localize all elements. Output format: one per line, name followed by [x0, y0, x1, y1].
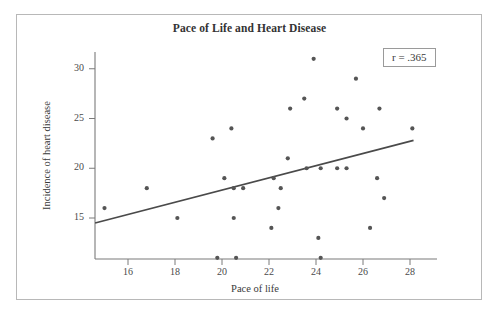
axis-lines: [95, 52, 437, 259]
data-point: [286, 156, 290, 160]
data-point: [382, 196, 386, 200]
data-point: [288, 106, 292, 110]
data-point: [232, 186, 236, 190]
data-point: [276, 206, 280, 210]
data-point: [234, 256, 238, 260]
data-point: [102, 206, 106, 210]
data-point: [316, 236, 320, 240]
data-point: [377, 106, 381, 110]
data-point: [302, 97, 306, 101]
data-point: [410, 126, 414, 130]
regression-line: [95, 140, 413, 223]
data-point: [335, 166, 339, 170]
x-tick-label: 20: [210, 266, 234, 277]
x-axis-ticks: [128, 259, 410, 265]
regression-line-segment: [95, 140, 413, 223]
y-tick-label: 30: [62, 62, 84, 73]
x-tick-label: 24: [304, 266, 328, 277]
data-point: [241, 186, 245, 190]
data-point: [354, 77, 358, 81]
data-point: [312, 57, 316, 61]
data-point: [279, 186, 283, 190]
data-point: [305, 166, 309, 170]
data-point: [375, 176, 379, 180]
correlation-annotation-box: r = .365: [383, 48, 436, 67]
x-axis-title: Pace of life: [95, 283, 415, 294]
y-axis-title: Incidence of heart disease: [41, 66, 52, 246]
figure-container: Pace of Life and Heart Disease 15202530 …: [0, 0, 499, 315]
x-tick-label: 18: [163, 266, 187, 277]
y-tick-label: 25: [62, 112, 84, 123]
data-point: [272, 176, 276, 180]
data-point: [175, 216, 179, 220]
data-points: [102, 57, 414, 260]
y-tick-label: 20: [62, 161, 84, 172]
data-point: [368, 226, 372, 230]
data-point: [229, 126, 233, 130]
x-tick-label: 22: [257, 266, 281, 277]
data-point: [211, 136, 215, 140]
data-point: [319, 256, 323, 260]
x-tick-label: 26: [351, 266, 375, 277]
y-axis-ticks: [89, 69, 95, 218]
data-point: [215, 256, 219, 260]
data-point: [344, 166, 348, 170]
data-point: [335, 106, 339, 110]
data-point: [319, 166, 323, 170]
y-tick-label: 15: [62, 211, 84, 222]
data-point: [232, 216, 236, 220]
x-tick-label: 28: [398, 266, 422, 277]
data-point: [222, 176, 226, 180]
data-point: [344, 116, 348, 120]
x-tick-label: 16: [116, 266, 140, 277]
data-point: [361, 126, 365, 130]
data-point: [269, 226, 273, 230]
data-point: [145, 186, 149, 190]
correlation-value-text: r = .365: [392, 51, 427, 63]
